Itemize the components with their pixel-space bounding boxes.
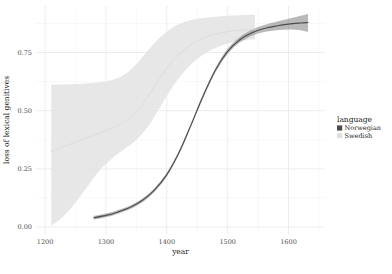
y-tick-label: 0.75 (18, 49, 32, 57)
x-axis-title: year (171, 247, 189, 256)
x-tick-label: 1300 (98, 238, 115, 246)
y-tick-label: 0.25 (18, 165, 32, 173)
legend-swatch-swedish[interactable] (337, 133, 342, 138)
y-tick-label: 0.50 (18, 107, 32, 115)
y-axis-title: loss of lexical genitives (2, 76, 11, 164)
x-tick-label: 1600 (280, 238, 297, 246)
legend-title: language (337, 115, 373, 124)
x-tick-label: 1400 (159, 238, 176, 246)
y-tick-label: 0.00 (18, 223, 32, 231)
chart-container: 12001300140015001600 0.000.250.500.75 ye… (0, 0, 392, 274)
x-tick-label: 1500 (219, 238, 236, 246)
legend-swatch-norwegian[interactable] (337, 125, 342, 130)
chart-plot: 12001300140015001600 0.000.250.500.75 ye… (0, 0, 392, 274)
x-tick-label: 1200 (37, 238, 54, 246)
legend-label-swedish[interactable]: Swedish (345, 132, 373, 140)
